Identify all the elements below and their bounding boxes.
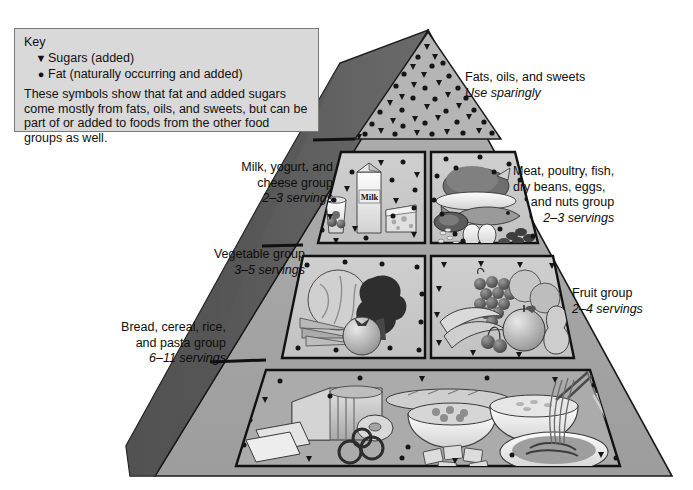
label-meat-poultry-fish: Meat, poultry, fish, dry beans, eggs, an…: [513, 164, 614, 226]
label-milk-line1: Milk, yogurt, and: [215, 160, 333, 176]
label-fruit-line1: Fruit group: [572, 286, 643, 302]
milk-carton-illustration: Milk: [357, 163, 381, 233]
label-meat-line2: dry beans, eggs,: [513, 180, 614, 196]
key-entry-fat-label: Fat (naturally occurring and added): [48, 66, 243, 82]
label-fruit-group: Fruit group 2–4 servings: [572, 286, 643, 317]
label-bread-line2: and pasta group: [76, 336, 226, 352]
milk-carton-label: Milk: [361, 192, 379, 202]
key-entry-sugars-label: Sugars (added): [48, 50, 134, 66]
key-entry-fat: ● Fat (naturally occurring and added): [34, 66, 309, 82]
label-meat-line3: and nuts group: [513, 195, 614, 211]
label-bread-cereal-rice-pasta: Bread, cereal, rice, and pasta group 6–1…: [76, 320, 226, 367]
label-milk-line2: cheese group: [215, 176, 333, 192]
label-milk-servings: 2–3 servings: [215, 191, 333, 207]
food-pyramid-figure: Milk: [0, 0, 693, 490]
cheese-wedge-illustration: [386, 205, 416, 232]
tier-bread-cereal-rice-pasta: [236, 370, 620, 476]
sugars-triangle-icon: ▼: [34, 50, 48, 66]
label-fats-line1: Fats, oils, and sweets: [465, 70, 585, 86]
label-vegetable-servings: 3–5 servings: [160, 263, 305, 279]
key-legend-box: Key ▼ Sugars (added) ● Fat (naturally oc…: [14, 28, 319, 132]
key-entry-sugars: ▼ Sugars (added): [34, 50, 309, 66]
label-vegetable-line1: Vegetable group: [160, 247, 305, 263]
tier-fruit: [431, 256, 578, 358]
label-vegetable-group: Vegetable group 3–5 servings: [160, 247, 305, 278]
label-meat-line1: Meat, poultry, fish,: [513, 164, 614, 180]
key-note-text: These symbols show that fat and added su…: [24, 87, 309, 145]
steak-illustration: [434, 212, 468, 232]
label-fats-oils-sweets: Fats, oils, and sweets Use sparingly: [465, 70, 585, 101]
label-fruit-servings: 2–4 servings: [572, 302, 643, 318]
key-title: Key: [24, 35, 309, 50]
tomato-illustration: [343, 317, 381, 355]
label-meat-servings: 2–3 servings: [513, 211, 614, 227]
label-bread-servings: 6–11 servings: [76, 351, 226, 367]
label-bread-line1: Bread, cereal, rice,: [76, 320, 226, 336]
label-fats-line2: Use sparingly: [465, 86, 585, 102]
fat-dot-icon: ●: [34, 66, 48, 82]
label-milk-yogurt-cheese: Milk, yogurt, and cheese group 2–3 servi…: [215, 160, 333, 207]
